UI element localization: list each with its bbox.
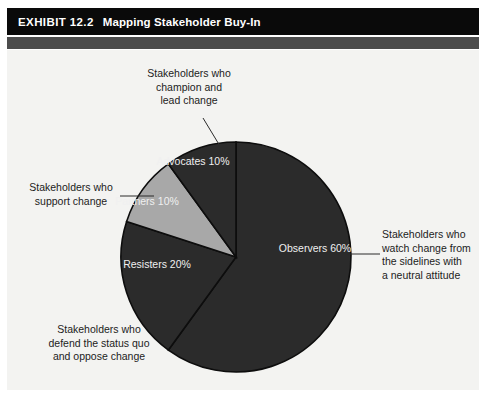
exhibit-frame: EXHIBIT 12.2 Mapping Stakeholder Buy-In … (0, 0, 497, 399)
exhibit-title: Mapping Stakeholder Buy-In (103, 16, 261, 28)
callout-resisters: Stakeholders who defend the status quo a… (31, 323, 167, 364)
exhibit-title-bar: EXHIBIT 12.2 Mapping Stakeholder Buy-In (7, 8, 479, 35)
exhibit-number: EXHIBIT 12.2 (18, 16, 94, 28)
callout-observers: Stakeholders who watch change from the s… (382, 228, 479, 282)
title-underband (7, 37, 479, 49)
callout-partners: Stakeholders who support change (13, 181, 129, 208)
callout-advocates: Stakeholders who champion and lead chang… (123, 67, 255, 108)
chart-panel: Observers 60% Resisters 20% Partners 10%… (7, 50, 479, 390)
